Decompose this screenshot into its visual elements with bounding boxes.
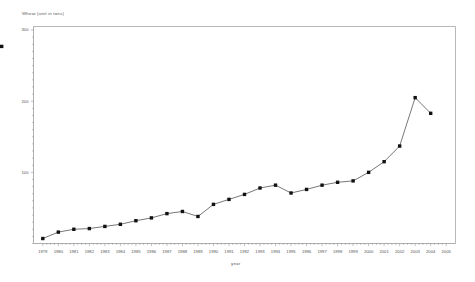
y-axis-ticks — [31, 30, 34, 243]
chart-canvas — [0, 0, 475, 282]
y-tick-label: 200 — [13, 99, 29, 104]
x-tick-label: 2005 — [437, 249, 455, 254]
plot-frame — [34, 27, 456, 244]
series-markers — [0, 45, 432, 241]
y-axis-title: Wheat (unit in tons) — [22, 11, 64, 16]
x-axis-ticks — [43, 244, 446, 247]
series-line — [43, 98, 431, 239]
y-tick-label: 100 — [13, 170, 29, 175]
y-tick-label: 300 — [13, 27, 29, 32]
chart-figure: Wheat (unit in tons) year 300200100 1979… — [0, 0, 475, 282]
x-axis-title: year — [231, 261, 240, 266]
